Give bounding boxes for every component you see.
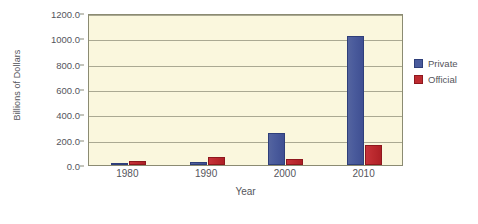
bar-private-2010[interactable]	[347, 36, 364, 165]
y-tick-mark	[80, 64, 84, 65]
bar-private-2000[interactable]	[268, 133, 285, 165]
bar-group	[190, 15, 225, 165]
bar-official-1990[interactable]	[208, 157, 225, 165]
y-tick-label: 0.0	[67, 161, 80, 172]
y-tick-mark	[80, 90, 84, 91]
plot-area	[88, 14, 403, 166]
x-tick-label-1990: 1990	[195, 168, 217, 179]
y-tick-mark	[80, 14, 84, 15]
bars-layer	[89, 15, 402, 165]
x-axis-ticks: 1980199020002010	[88, 168, 403, 184]
bar-private-1980[interactable]	[111, 163, 128, 165]
y-tick-label: 1000.0	[51, 34, 80, 45]
y-tick-mark	[80, 39, 84, 40]
bar-chart: Billions of Dollars 0.0200.0400.0600.080…	[0, 0, 478, 224]
y-tick-label: 800.0	[56, 59, 80, 70]
legend-item-official[interactable]: Official	[414, 74, 476, 85]
bar-official-2010[interactable]	[365, 145, 382, 165]
y-axis-ticks: 0.0200.0400.0600.0800.01000.01200.0	[24, 14, 84, 166]
x-tick-label-2000: 2000	[274, 168, 296, 179]
y-tick-label: 1200.0	[51, 9, 80, 20]
legend-label: Official	[428, 74, 457, 85]
y-tick-mark	[80, 115, 84, 116]
x-tick-label-1980: 1980	[116, 168, 138, 179]
y-tick-mark	[80, 140, 84, 141]
y-tick-label: 400.0	[56, 110, 80, 121]
bar-official-1980[interactable]	[129, 161, 146, 165]
legend-item-private[interactable]: Private	[414, 58, 476, 69]
legend-swatch-icon	[414, 59, 423, 68]
x-axis-title: Year	[88, 186, 403, 197]
legend-swatch-icon	[414, 75, 423, 84]
x-tick-label-2010: 2010	[353, 168, 375, 179]
bar-group	[268, 15, 303, 165]
bar-private-1990[interactable]	[190, 162, 207, 165]
y-tick-label: 600.0	[56, 85, 80, 96]
bar-group	[111, 15, 146, 165]
y-tick-label: 200.0	[56, 135, 80, 146]
chart-legend: PrivateOfficial	[414, 58, 476, 90]
legend-label: Private	[428, 58, 458, 69]
bar-group	[347, 15, 382, 165]
y-tick-mark	[80, 166, 84, 167]
bar-official-2000[interactable]	[286, 159, 303, 165]
y-axis-title-text: Billions of Dollars	[12, 50, 22, 121]
